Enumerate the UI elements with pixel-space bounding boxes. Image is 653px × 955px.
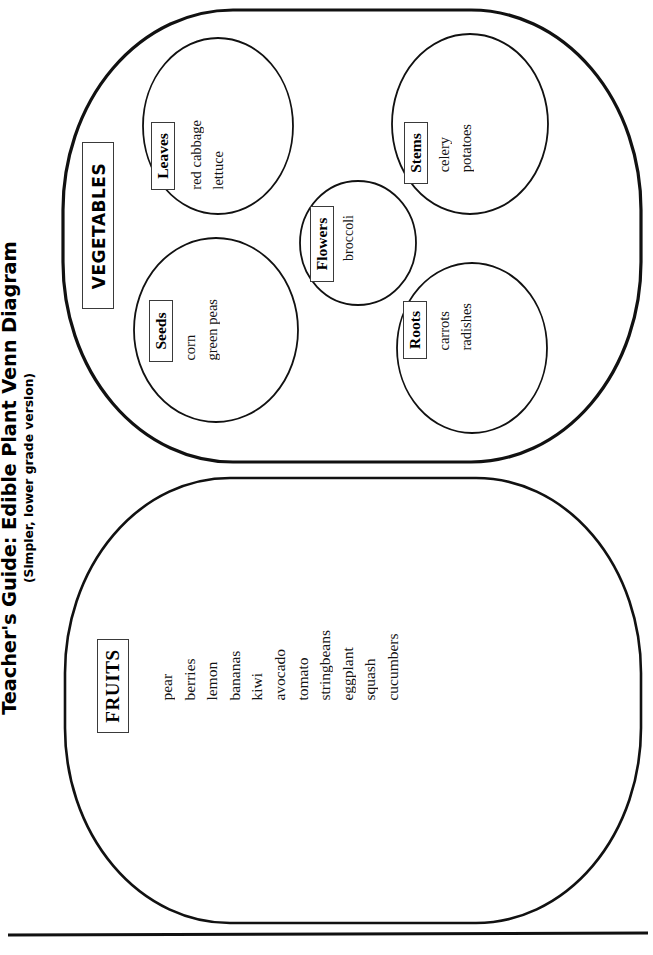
list-item: tomato: [294, 630, 312, 701]
stems-item-list: celery potatoes: [436, 124, 480, 172]
list-item: eggplant: [339, 630, 357, 701]
list-item: lemon: [203, 630, 221, 701]
seeds-item-list: corn green peas: [182, 299, 226, 361]
vegetables-label-box: VEGETABLES: [82, 142, 114, 309]
list-item: kiwi: [248, 630, 266, 701]
stems-label-box: Stems: [404, 122, 428, 184]
fruits-label-box: FRUITS: [97, 639, 129, 733]
list-item: berries: [181, 630, 199, 701]
flowers-label-box: Flowers: [310, 206, 334, 282]
list-item: radishes: [458, 303, 475, 351]
list-item: carrots: [436, 303, 453, 351]
leaves-item-list: red cabbage lettuce: [188, 120, 232, 190]
list-item: lettuce: [210, 120, 227, 190]
list-item: potatoes: [458, 124, 475, 172]
fruits-label: FRUITS: [98, 640, 128, 732]
leaves-label-box: Leaves: [151, 122, 175, 190]
list-item: bananas: [226, 630, 244, 701]
roots-item-list: carrots radishes: [436, 303, 480, 351]
seeds-label-box: Seeds: [149, 300, 173, 362]
flowers-item-list: broccoli: [341, 215, 362, 261]
footer-rule: [8, 933, 648, 935]
list-item: squash: [361, 630, 379, 701]
vegetables-label: VEGETABLES: [83, 143, 113, 308]
list-item: green peas: [204, 299, 221, 361]
seeds-label: Seeds: [150, 301, 172, 361]
fruits-item-list: pear berries lemon bananas kiwi avocado …: [158, 630, 407, 701]
flowers-label: Flowers: [311, 207, 333, 281]
list-item: corn: [182, 299, 199, 361]
list-item: broccoli: [341, 215, 357, 261]
roots-label-box: Roots: [403, 301, 427, 359]
roots-label: Roots: [404, 302, 426, 358]
list-item: cucumbers: [384, 630, 402, 701]
list-item: red cabbage: [188, 120, 205, 190]
list-item: avocado: [271, 630, 289, 701]
leaves-label: Leaves: [152, 123, 174, 189]
diagram-page: Teacher's Guide: Edible Plant Venn Diagr…: [0, 0, 653, 955]
stems-label: Stems: [405, 123, 427, 183]
list-item: stringbeans: [316, 630, 334, 701]
list-item: celery: [436, 124, 453, 172]
list-item: pear: [158, 630, 176, 701]
